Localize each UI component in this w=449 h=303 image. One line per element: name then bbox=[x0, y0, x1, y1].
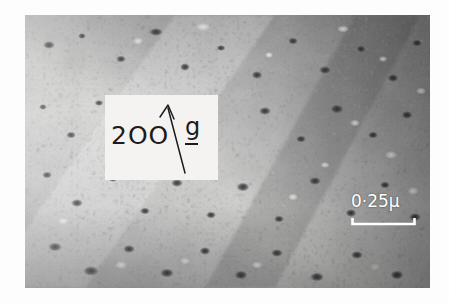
tem-micrograph-plate bbox=[25, 15, 430, 288]
diffraction-annotation-box: 2OO g bbox=[105, 95, 218, 180]
g-vector-symbol: g bbox=[185, 115, 200, 139]
scale-bar-label: 0·25μ bbox=[351, 193, 400, 210]
scale-bar-group: 0·25μ bbox=[349, 193, 419, 228]
figure-container: 2OO g 0·25μ bbox=[0, 0, 449, 303]
g-vector-underline bbox=[185, 143, 198, 145]
micrograph-canvas bbox=[25, 15, 430, 288]
scale-bar-rule bbox=[351, 217, 416, 226]
